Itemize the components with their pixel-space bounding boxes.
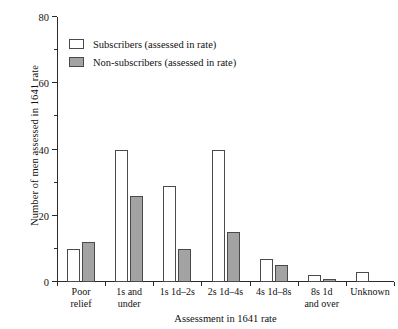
x-label-2: 1s 1d–2s [160, 286, 195, 298]
x-label-3: 2s 1d–4s [208, 286, 243, 298]
legend-swatch-non-subscribers-icon [69, 57, 84, 67]
bar-non-subscribers-5 [323, 279, 336, 282]
bar-subscribers-4 [260, 259, 273, 282]
x-axis-tick-labels: Poorrelief1s andunder1s 1d–2s2s 1d–4s4s … [57, 286, 394, 312]
bar-non-subscribers-2 [178, 249, 191, 282]
bar-subscribers-6 [356, 272, 369, 282]
bar-non-subscribers-4 [275, 265, 288, 282]
x-label-line: and over [304, 298, 339, 310]
x-label-line: Poor [71, 286, 92, 298]
legend-item-subscribers: Subscribers (assessed in rate) [69, 36, 236, 52]
bar-subscribers-1 [115, 150, 128, 283]
x-axis-title: Assessment in 1641 rate [57, 313, 394, 324]
legend: Subscribers (assessed in rate) Non-subsc… [69, 36, 236, 72]
x-label-line: 1s 1d–2s [160, 286, 195, 298]
y-tick-20 [52, 215, 57, 216]
bar-non-subscribers-0 [82, 242, 95, 282]
legend-label-subscribers: Subscribers (assessed in rate) [93, 39, 216, 50]
bar-subscribers-5 [308, 275, 321, 282]
y-tick-label-60: 60 [39, 78, 50, 89]
x-label-line: under [116, 298, 142, 310]
x-axis-line [57, 281, 394, 282]
x-label-line: relief [71, 298, 92, 310]
y-tick-60 [52, 82, 57, 83]
x-label-line: 8s 1d [304, 286, 339, 298]
bar-subscribers-3 [212, 150, 225, 283]
y-tick-minor-70 [54, 49, 57, 50]
x-label-6: Unknown [350, 286, 389, 298]
x-label-line: 2s 1d–4s [208, 286, 243, 298]
x-label-0: Poorrelief [71, 286, 92, 309]
legend-label-non-subscribers: Non-subscribers (assessed in rate) [93, 57, 236, 68]
x-tick-7 [394, 282, 395, 286]
y-tick-minor-30 [54, 182, 57, 183]
legend-swatch-subscribers-icon [69, 39, 84, 49]
y-tick-minor-50 [54, 115, 57, 116]
x-label-1: 1s andunder [116, 286, 142, 309]
x-label-line: 4s 1d–8s [256, 286, 291, 298]
bar-non-subscribers-3 [227, 232, 240, 282]
y-tick-minor-10 [54, 248, 57, 249]
bar-subscribers-2 [163, 186, 176, 282]
y-tick-label-20: 20 [39, 210, 50, 221]
x-label-4: 4s 1d–8s [256, 286, 291, 298]
y-tick-label-40: 40 [39, 144, 50, 155]
legend-item-non-subscribers: Non-subscribers (assessed in rate) [69, 54, 236, 70]
y-tick-80 [52, 16, 57, 17]
y-tick-label-0: 0 [44, 277, 49, 288]
bar-non-subscribers-1 [130, 196, 143, 282]
bar-chart: Number of men assessed in 1641 rate 0204… [0, 0, 398, 329]
bar-subscribers-0 [67, 249, 80, 282]
x-label-line: Unknown [350, 286, 389, 298]
y-tick-40 [52, 149, 57, 150]
x-label-5: 8s 1dand over [304, 286, 339, 309]
x-label-line: 1s and [116, 286, 142, 298]
y-axis-line [57, 17, 58, 282]
y-tick-label-80: 80 [39, 12, 50, 23]
